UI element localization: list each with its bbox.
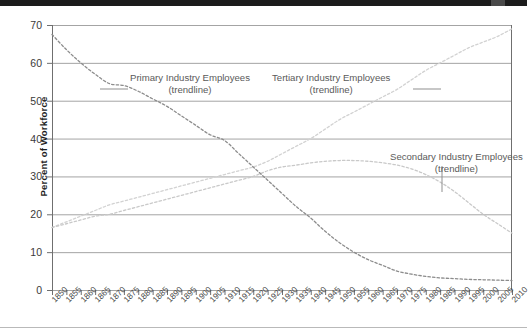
page-bottom-rule — [0, 327, 527, 328]
annotation-primary-line1: Primary Industry Employees — [130, 72, 250, 84]
y-tick-label: 10 — [16, 247, 42, 258]
annotation-secondary-line1: Secondary Industry Employees — [390, 151, 523, 163]
workforce-trendline-chart: Percent of Workforce 706050403020100 185… — [0, 6, 527, 327]
y-tick-label: 70 — [16, 20, 42, 31]
y-tick-label: 20 — [16, 209, 42, 220]
y-tick-label: 60 — [16, 58, 42, 69]
annotation-secondary-line2: (trendline) — [390, 163, 523, 175]
y-tick-label: 50 — [16, 96, 42, 107]
y-tick-label: 0 — [16, 285, 42, 296]
series-line-tertiary — [52, 29, 512, 228]
y-tick-label: 40 — [16, 134, 42, 145]
annotation-tertiary-line2: (trendline) — [272, 84, 390, 96]
annotation-tertiary-line1: Tertiary Industry Employees — [272, 72, 390, 84]
annotation-primary-line2: (trendline) — [130, 84, 250, 96]
y-axis-title: Percent of Workforce — [38, 62, 49, 232]
annotation-secondary-industry: Secondary Industry Employees (trendline) — [390, 151, 523, 175]
y-tick-label: 30 — [16, 171, 42, 182]
annotation-tertiary-industry: Tertiary Industry Employees (trendline) — [272, 72, 390, 96]
annotation-primary-industry: Primary Industry Employees (trendline) — [130, 72, 250, 96]
